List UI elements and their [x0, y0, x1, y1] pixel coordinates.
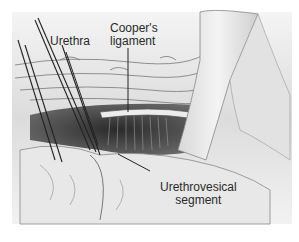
label-urethrovesical-segment: Urethrovesical segment [160, 181, 237, 207]
label-urethrovesical-line2: segment [160, 194, 237, 207]
surgical-illustration: Urethra Cooper's ligament Urethrovesical… [0, 0, 299, 242]
label-urethra: Urethra [50, 35, 90, 48]
label-coopers-line2: ligament [110, 35, 158, 48]
label-coopers-ligament: Cooper's ligament [110, 22, 158, 48]
